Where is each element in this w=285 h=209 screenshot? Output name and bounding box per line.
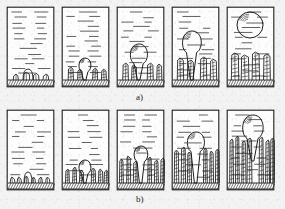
panel-b2 xyxy=(61,109,110,192)
figure-row-a xyxy=(0,6,285,92)
panel-b4 xyxy=(171,109,220,192)
panel-a3 xyxy=(116,6,165,89)
row-label-a: a) xyxy=(136,92,143,102)
panel-b3 xyxy=(116,109,165,192)
panel-a2 xyxy=(61,6,110,89)
panel-b5 xyxy=(226,109,275,192)
row-label-b: b) xyxy=(136,194,144,204)
panel-a5 xyxy=(226,6,275,89)
figure-root: a) b) xyxy=(0,0,285,209)
panel-b1 xyxy=(6,109,55,192)
panel-a1 xyxy=(6,6,55,89)
figure-row-b xyxy=(0,109,285,195)
panel-a4 xyxy=(171,6,220,89)
